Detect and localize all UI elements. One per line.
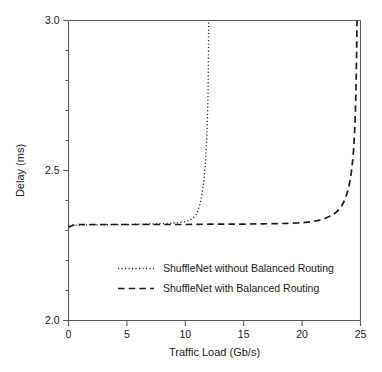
x-tick-label: 15 (238, 328, 250, 340)
y-axis-title: Delay (ms) (14, 144, 26, 197)
y-tick-label: 2.5 (45, 164, 60, 176)
x-tick-label: 10 (179, 328, 191, 340)
y-tick-label: 2.0 (45, 314, 60, 326)
x-axis-title: Traffic Load (Gb/s) (169, 346, 260, 358)
chart-canvas: 2.02.53.00510152025 Traffic Load (Gb/s)D… (0, 0, 382, 372)
series-line-1 (69, 21, 209, 226)
series-line-2 (69, 21, 358, 228)
series-group (69, 21, 358, 228)
legend-label-2: ShuffleNet with Balanced Routing (163, 282, 319, 294)
x-tick-label: 5 (124, 328, 130, 340)
y-tick-label: 3.0 (45, 14, 60, 26)
axes-group (63, 21, 361, 327)
chart-legend: ShuffleNet without Balanced RoutingShuff… (118, 262, 334, 294)
x-tick-label: 20 (296, 328, 308, 340)
chart-figure: 2.02.53.00510152025 Traffic Load (Gb/s)D… (0, 0, 382, 372)
x-tick-label: 25 (355, 328, 367, 340)
x-tick-label: 0 (66, 328, 72, 340)
legend-label-1: ShuffleNet without Balanced Routing (163, 262, 334, 274)
